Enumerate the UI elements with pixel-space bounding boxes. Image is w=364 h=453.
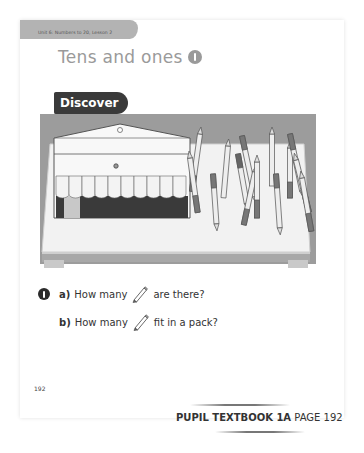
footer-divider [190, 404, 290, 406]
question-a: a) How many are there? [38, 285, 205, 303]
pencil-icon [132, 313, 150, 331]
question-number-icon [38, 288, 50, 300]
footer-divider [215, 431, 305, 433]
footer-label: PUPIL TEXTBOOK 1A PAGE 192 [176, 412, 343, 423]
lesson-number-icon [188, 50, 202, 64]
title-row: Tens and ones [58, 47, 202, 67]
pencils-illustration [40, 114, 316, 268]
question-text: How many [75, 317, 128, 328]
pencil-pack [54, 124, 190, 218]
question-text: are there? [153, 289, 204, 300]
textbook-page: Unit 6: Numbers to 20, Lesson 2 Tens and… [20, 20, 344, 418]
pencil-icon [131, 285, 149, 303]
page-title: Tens and ones [58, 47, 183, 67]
question-b: b) How many fit in a pack? [59, 313, 218, 331]
question-text: How many [74, 289, 127, 300]
question-text: fit in a pack? [154, 317, 218, 328]
unit-label: Unit 6: Numbers to 20, Lesson 2 [38, 30, 112, 35]
discover-banner: Discover [54, 92, 128, 114]
question-letter: b) [59, 317, 71, 328]
page-number: 192 [34, 385, 45, 392]
footer-book: PUPIL TEXTBOOK 1A [176, 412, 291, 423]
question-letter: a) [59, 289, 70, 300]
footer-page: PAGE 192 [294, 412, 342, 423]
